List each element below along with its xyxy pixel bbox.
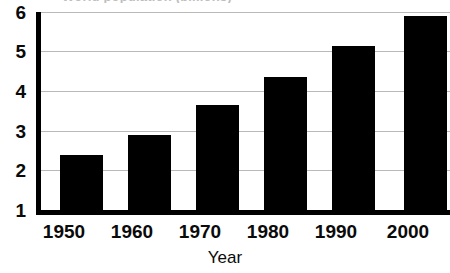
y-axis-tick-1: 1 xyxy=(0,201,26,220)
bar-1970 xyxy=(196,105,239,210)
x-axis-baseline xyxy=(36,210,450,215)
gridline-6 xyxy=(36,12,450,13)
y-axis-tick-2: 2 xyxy=(0,161,26,180)
y-axis-tick-6: 6 xyxy=(0,3,26,22)
bar-1980 xyxy=(264,77,307,210)
gridline-3 xyxy=(36,131,450,132)
x-axis-tick-1970: 1970 xyxy=(165,221,235,242)
x-axis-tick-1960: 1960 xyxy=(97,221,167,242)
bar-1990 xyxy=(332,46,375,210)
plot-area xyxy=(36,12,450,210)
chart-title-clipped: World population (billions) xyxy=(62,0,322,3)
y-axis-spine xyxy=(36,12,41,215)
x-axis-tick-2000: 2000 xyxy=(373,221,443,242)
y-axis-tick-5: 5 xyxy=(0,42,26,61)
x-axis-tick-1980: 1980 xyxy=(233,221,303,242)
bar-1950 xyxy=(60,155,103,210)
bar-2000 xyxy=(404,16,447,210)
bar-1960 xyxy=(128,135,171,210)
y-axis-tick-3: 3 xyxy=(0,122,26,141)
x-axis-tick-1950: 1950 xyxy=(29,221,99,242)
x-axis-tick-1990: 1990 xyxy=(301,221,371,242)
gridline-4 xyxy=(36,91,450,92)
bar-chart: World population (billions) 6 5 4 3 2 1 … xyxy=(0,0,450,273)
y-axis-tick-4: 4 xyxy=(0,82,26,101)
gridline-5 xyxy=(36,51,450,52)
x-axis-title: Year xyxy=(0,248,450,268)
